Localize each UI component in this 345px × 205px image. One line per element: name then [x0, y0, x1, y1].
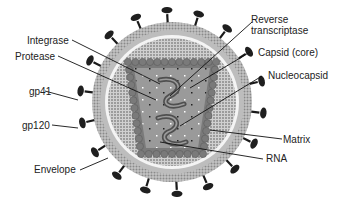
label-gp41: gp41 — [29, 86, 51, 97]
label-matrix: Matrix — [283, 134, 310, 145]
label-protease: Protease — [15, 51, 55, 62]
label-reverse-transcriptase-1: Reverse — [251, 14, 288, 25]
label-nucleocapsid: Nucleocapsid — [268, 70, 328, 81]
label-reverse-transcriptase-2: transcriptase — [251, 25, 308, 36]
label-rna: RNA — [266, 153, 287, 164]
label-capsid: Capsid (core) — [258, 47, 318, 58]
label-envelope: Envelope — [34, 164, 76, 175]
hiv-virion-diagram: Integrase Protease gp41 gp120 Envelope R… — [0, 0, 345, 205]
label-integrase: Integrase — [27, 35, 69, 46]
label-gp120: gp120 — [22, 120, 50, 131]
